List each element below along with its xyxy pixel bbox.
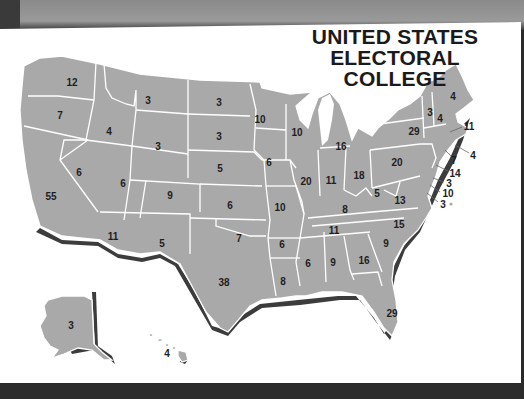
state-label-washington: 12 xyxy=(66,77,77,88)
state-label-utah: 6 xyxy=(120,178,126,189)
state-label-wisconsin: 10 xyxy=(291,127,302,138)
title-line-1: UNITED STATES xyxy=(300,26,490,47)
state-label-new-york: 29 xyxy=(408,126,419,137)
state-label-mississippi: 6 xyxy=(305,258,311,269)
state-label-north-dakota: 3 xyxy=(216,97,222,108)
state-label-georgia: 16 xyxy=(358,255,369,266)
state-label-massachusetts: 11 xyxy=(464,121,475,132)
state-label-colorado: 9 xyxy=(167,190,173,201)
state-label-montana: 3 xyxy=(145,95,151,106)
state-label-missouri: 10 xyxy=(274,202,285,213)
state-label-maryland: 10 xyxy=(442,188,453,199)
state-label-florida: 29 xyxy=(386,308,397,319)
state-label-virginia: 13 xyxy=(394,195,405,206)
state-label-north-carolina: 15 xyxy=(393,219,404,230)
state-label-maine: 4 xyxy=(450,91,456,102)
state-label-pennsylvania: 20 xyxy=(391,157,402,168)
state-label-connecticut: 7 xyxy=(451,155,457,166)
state-label-minnesota: 10 xyxy=(254,114,265,125)
title-line-2: ELECTORAL COLLEGE xyxy=(300,47,490,89)
state-label-alaska: 3 xyxy=(68,320,74,331)
state-label-louisiana: 8 xyxy=(280,276,286,287)
state-label-michigan: 16 xyxy=(335,141,346,152)
map-title: UNITED STATES ELECTORAL COLLEGE xyxy=(300,26,490,89)
state-label-new-mexico: 5 xyxy=(159,238,165,249)
state-label-hawaii: 4 xyxy=(164,348,170,359)
state-label-ohio: 18 xyxy=(353,170,364,181)
state-label-west-virginia: 5 xyxy=(374,188,380,199)
state-label-rhode-island: 4 xyxy=(470,150,476,161)
state-label-kansas: 6 xyxy=(227,200,233,211)
state-label-district-of-columbia: 3 xyxy=(440,199,446,210)
state-label-south-dakota: 3 xyxy=(216,131,222,142)
state-label-oregon: 7 xyxy=(57,110,63,121)
state-label-texas: 38 xyxy=(218,277,229,288)
states-base xyxy=(20,56,474,336)
state-label-new-hampshire: 4 xyxy=(437,113,443,124)
state-label-south-carolina: 9 xyxy=(383,238,389,249)
dc-marker xyxy=(449,202,452,205)
state-label-alabama: 9 xyxy=(330,257,336,268)
state-label-indiana: 11 xyxy=(326,175,337,186)
state-label-iowa: 6 xyxy=(266,157,272,168)
state-label-wyoming: 3 xyxy=(155,141,161,152)
state-label-oklahoma: 7 xyxy=(236,233,242,244)
state-label-nebraska: 5 xyxy=(217,163,223,174)
state-label-california: 55 xyxy=(45,191,56,202)
state-label-vermont: 3 xyxy=(427,107,433,118)
state-label-arizona: 11 xyxy=(108,231,119,242)
state-label-idaho: 4 xyxy=(106,126,112,137)
state-label-illinois: 20 xyxy=(300,176,311,187)
state-label-nevada: 6 xyxy=(76,167,82,178)
state-label-kentucky: 8 xyxy=(342,204,348,215)
state-label-arkansas: 6 xyxy=(279,239,285,250)
state-label-tennessee: 11 xyxy=(329,225,340,236)
